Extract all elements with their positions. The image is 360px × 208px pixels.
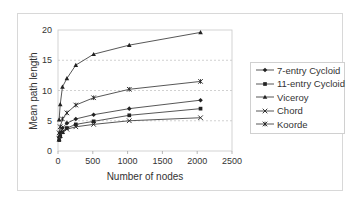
series-chord: [57, 115, 203, 141]
y-tick-label: 10: [42, 86, 52, 96]
y-axis-ticks: 05101520: [42, 25, 52, 156]
y-tick-label: 5: [47, 116, 52, 126]
plot-area: [58, 30, 232, 151]
y-tick-label: 20: [42, 25, 52, 35]
x-tick-label: 0: [55, 156, 60, 166]
legend-label: Chord: [277, 105, 303, 116]
legend-label: Viceroy: [277, 92, 309, 103]
diamond-marker-icon: [255, 65, 275, 75]
legend-item: Koorde: [255, 117, 308, 131]
series-11-entry-cycloid: [57, 107, 202, 142]
legend-label: 7-entry Cycloid: [277, 65, 340, 76]
legend: 7-entry Cycloid11-entry CycloidViceroyCh…: [250, 62, 345, 134]
legend-item: Chord: [255, 104, 303, 118]
y-tick-label: 0: [47, 146, 52, 156]
legend-label: 11-entry Cycloid: [277, 78, 345, 89]
x-tick-label: 1000: [118, 156, 138, 166]
y-axis-label: Mean path length: [28, 52, 39, 129]
legend-item: 7-entry Cycloid: [255, 63, 340, 77]
x-tick-label: 1500: [152, 156, 172, 166]
x-axis-ticks: 05001000150020002500: [55, 151, 242, 166]
x-tick-label: 500: [85, 156, 100, 166]
star-marker-icon: [255, 119, 275, 129]
square-marker-icon: [255, 79, 275, 89]
legend-item: 11-entry Cycloid: [255, 77, 345, 91]
x-axis-label: Number of nodes: [107, 171, 184, 182]
x-tick-label: 2000: [187, 156, 207, 166]
series-lines: [57, 30, 203, 142]
legend-label: Koorde: [277, 119, 308, 130]
y-tick-label: 15: [42, 55, 52, 65]
x-tick-label: 2500: [222, 156, 242, 166]
gridlines: [58, 60, 232, 121]
triangle-marker-icon: [255, 92, 275, 102]
legend-item: Viceroy: [255, 90, 309, 104]
x-marker-icon: [255, 106, 275, 116]
